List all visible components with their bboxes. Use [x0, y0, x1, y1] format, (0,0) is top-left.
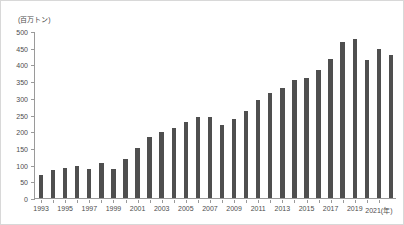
bar-slot	[240, 32, 252, 198]
bar-slot	[385, 32, 397, 198]
bar-slot	[156, 32, 168, 198]
bar-slot	[228, 32, 240, 198]
x-axis-tick	[379, 200, 380, 203]
y-axis-tick-label: 300	[16, 95, 28, 102]
bar	[316, 70, 320, 198]
bar	[172, 128, 176, 198]
bar	[99, 163, 103, 198]
bar	[208, 117, 212, 198]
x-axis-tick	[343, 200, 344, 203]
x-axis-tick-label: 2009	[226, 205, 242, 212]
bar-slot	[300, 32, 312, 198]
bar	[353, 39, 357, 198]
y-axis-unit-label: (百万トン)	[18, 14, 51, 24]
y-axis-tick-label: 100	[16, 162, 28, 169]
bar	[135, 148, 139, 198]
bar-slot	[288, 32, 300, 198]
x-axis-tick	[89, 200, 90, 203]
bar-slot	[119, 32, 131, 198]
bar-slot	[276, 32, 288, 198]
y-axis-tick-label: 350	[16, 79, 28, 86]
bar-slot	[71, 32, 83, 198]
x-axis-tick	[198, 200, 199, 203]
x-axis-tick-label: 2011	[251, 205, 266, 212]
bar	[340, 42, 344, 198]
bar	[184, 122, 188, 198]
bar	[123, 159, 127, 198]
x-axis-tick	[222, 200, 223, 203]
bar-slot	[95, 32, 107, 198]
plot-area: 050100150200250300350400450500	[34, 32, 396, 199]
x-axis-tick	[53, 200, 54, 203]
bar	[365, 60, 369, 198]
x-axis-tick	[282, 200, 283, 203]
bar	[304, 78, 308, 198]
x-axis-tick	[234, 200, 235, 203]
bar-slot	[35, 32, 47, 198]
y-axis-tick-label: 0	[24, 196, 28, 203]
y-axis-tick-label: 400	[16, 62, 28, 69]
bar-slot	[144, 32, 156, 198]
x-axis-tick	[41, 200, 42, 203]
bar-slot	[373, 32, 385, 198]
x-axis-tick-label: 1993	[33, 205, 49, 212]
x-axis-tick-label: 2003	[154, 205, 170, 212]
bar	[147, 137, 151, 198]
bar-slot	[192, 32, 204, 198]
y-axis-tick-label: 500	[16, 29, 28, 36]
x-axis-tick-label: 2015	[299, 205, 315, 212]
x-axis-line	[34, 198, 396, 199]
bar	[75, 166, 79, 198]
x-axis-tick-label: 2005	[178, 205, 194, 212]
bar	[159, 132, 163, 198]
y-axis-tick-label: 200	[16, 129, 28, 136]
bar-series	[35, 32, 396, 198]
x-axis-tick	[101, 200, 102, 203]
x-axis-tick-label: 2013	[275, 205, 291, 212]
x-axis-tick	[355, 200, 356, 203]
x-axis-tick	[65, 200, 66, 203]
bar-slot	[252, 32, 264, 198]
bar	[389, 55, 393, 198]
x-axis-tick-label: 1995	[57, 205, 73, 212]
bar	[196, 117, 200, 198]
bar	[87, 169, 91, 198]
x-axis-tick-label: 1997	[82, 205, 98, 212]
x-axis-labels: 1993199519971999200120032005200720092011…	[34, 200, 396, 222]
bar	[292, 80, 296, 198]
bar-slot	[313, 32, 325, 198]
bar	[63, 168, 67, 198]
x-axis-tick	[77, 200, 78, 203]
bar	[280, 88, 284, 198]
x-axis-tick	[162, 200, 163, 203]
bar	[377, 49, 381, 198]
x-axis-tick-label: 1999	[106, 205, 122, 212]
bar-slot	[349, 32, 361, 198]
y-axis-tick-label: 250	[16, 112, 28, 119]
bar-slot	[216, 32, 228, 198]
bar-slot	[59, 32, 71, 198]
x-axis-tick	[210, 200, 211, 203]
bar-slot	[180, 32, 192, 198]
x-axis-tick-label: 2021(年)	[365, 205, 392, 215]
x-axis-tick	[174, 200, 175, 203]
bar-slot	[47, 32, 59, 198]
x-axis-tick	[138, 200, 139, 203]
x-axis-tick	[331, 200, 332, 203]
x-axis-tick	[258, 200, 259, 203]
x-axis-tick	[150, 200, 151, 203]
x-axis-tick	[319, 200, 320, 203]
y-axis-tick-label: 50	[20, 179, 28, 186]
bar	[244, 111, 248, 198]
bar	[111, 169, 115, 198]
bar-slot	[361, 32, 373, 198]
bar-slot	[264, 32, 276, 198]
x-axis-tick-label: 2017	[323, 205, 339, 212]
bar-slot	[337, 32, 349, 198]
x-axis-tick	[294, 200, 295, 203]
bar	[268, 93, 272, 198]
x-axis-tick	[113, 200, 114, 203]
bar	[328, 59, 332, 198]
bar	[220, 125, 224, 198]
x-axis-tick	[367, 200, 368, 203]
